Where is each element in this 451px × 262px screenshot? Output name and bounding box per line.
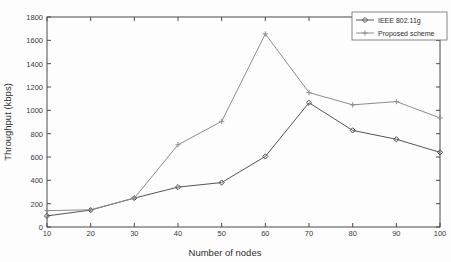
legend-label: IEEE 802.11g — [378, 17, 421, 25]
y-tick-label: 1200 — [26, 83, 43, 92]
y-tick-label: 0 — [39, 223, 43, 232]
y-axis-title: Throughput (kbps) — [2, 83, 13, 161]
y-tick-label: 200 — [30, 200, 43, 209]
y-tick-label: 1400 — [26, 60, 43, 69]
chart-legend: IEEE 802.11gProposed scheme — [352, 12, 447, 40]
line-chart-plot: 102030405060708090100 020040060080010001… — [0, 0, 451, 262]
x-tick-label: 70 — [305, 229, 313, 238]
x-tick-label: 50 — [217, 229, 225, 238]
y-tick-label: 400 — [30, 176, 43, 185]
y-tick-label: 800 — [30, 130, 43, 139]
legend-label: Proposed scheme — [378, 30, 435, 38]
x-tick-label: 40 — [174, 229, 182, 238]
chart-figure: 102030405060708090100 020040060080010001… — [0, 0, 451, 262]
x-tick-label: 10 — [43, 229, 51, 238]
x-tick-label: 90 — [392, 229, 400, 238]
x-axis-title: Number of nodes — [189, 247, 262, 258]
y-tick-label: 600 — [30, 153, 43, 162]
x-tick-label: 80 — [348, 229, 356, 238]
x-tick-label: 30 — [130, 229, 138, 238]
x-tick-label: 100 — [434, 229, 447, 238]
y-tick-label: 1800 — [26, 13, 43, 22]
x-tick-label: 60 — [261, 229, 269, 238]
y-tick-label: 1600 — [26, 36, 43, 45]
y-tick-label: 1000 — [26, 106, 43, 115]
x-tick-label: 20 — [86, 229, 94, 238]
